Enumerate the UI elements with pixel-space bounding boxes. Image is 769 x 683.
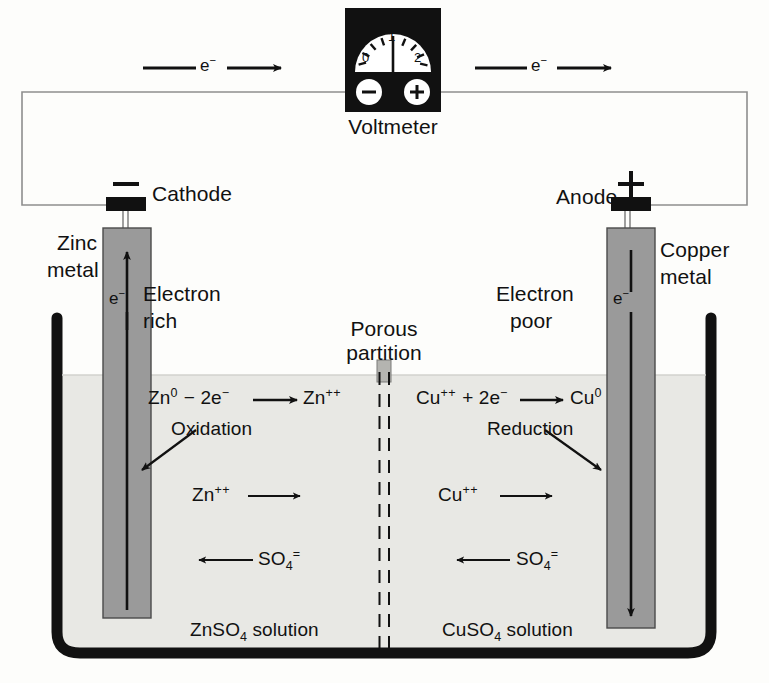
- anode-label: Anode: [556, 186, 617, 209]
- voltmeter-tick-1: 1: [388, 30, 395, 44]
- electron-rich-label-line2: rich: [143, 310, 177, 333]
- copper-solution-label: CuSO4 solution: [442, 620, 573, 641]
- zinc-metal-label-line1: Zinc: [57, 232, 97, 255]
- voltmeter-tick-2: 2: [414, 51, 421, 65]
- right-sulfate-label: SO4=: [516, 549, 559, 570]
- porous-partition-label-line2: partition: [318, 342, 450, 365]
- cathode-clip: [106, 197, 146, 211]
- oxidation-equation: Zn0− 2e−: [148, 388, 230, 409]
- electron-poor-label-line2: poor: [510, 310, 552, 333]
- voltmeter-tick-0: 0: [362, 51, 369, 65]
- copper-electrode-group: [607, 171, 655, 628]
- zinc-electron-symbol: e−: [109, 290, 126, 308]
- oxidation-equation-product: Zn++: [303, 388, 341, 409]
- zinc-metal-label-line2: metal: [47, 259, 99, 282]
- cell-diagram-canvas: e− e− Voltmeter 0 1 2 Cathode Zinc metal…: [0, 0, 769, 683]
- copper-cation-label: Cu++: [438, 485, 478, 506]
- voltmeter-label: Voltmeter: [318, 116, 468, 139]
- electron-flow-label-right: e−: [531, 57, 548, 75]
- zinc-electrode-group: [103, 184, 151, 618]
- reduction-equation: Cu+++ 2e−: [416, 388, 508, 409]
- zinc-solution-label: ZnSO4 solution: [190, 620, 319, 641]
- zinc-cation-label: Zn++: [192, 485, 230, 506]
- electron-poor-label-line1: Electron: [496, 283, 574, 306]
- voltmeter-group: [345, 8, 441, 112]
- cathode-label: Cathode: [152, 183, 232, 206]
- copper-electron-symbol: e−: [613, 290, 630, 308]
- oxidation-label: Oxidation: [171, 419, 252, 440]
- copper-metal-label-line1: Copper: [660, 239, 729, 262]
- porous-partition-label-line1: Porous: [318, 318, 450, 341]
- left-sulfate-label: SO4=: [258, 549, 301, 570]
- reduction-label: Reduction: [487, 419, 573, 440]
- copper-metal-label-line2: metal: [660, 266, 712, 289]
- electron-flow-label-left: e−: [200, 57, 217, 75]
- electron-rich-label-line1: Electron: [143, 283, 221, 306]
- reduction-equation-product: Cu0: [570, 388, 602, 409]
